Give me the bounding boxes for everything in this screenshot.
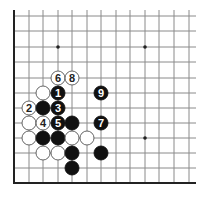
star-point (56, 45, 60, 49)
black-stone: 3 (51, 101, 65, 115)
black-stone: 9 (94, 86, 108, 100)
white-stone (65, 131, 79, 145)
move-number-label: 8 (69, 72, 75, 84)
white-stone (51, 146, 65, 160)
move-number-label: 6 (55, 72, 61, 84)
black-stone (65, 146, 79, 160)
white-stone (36, 146, 50, 160)
white-stone (80, 131, 94, 145)
black-stone (36, 131, 50, 145)
black-stone: 5 (51, 116, 65, 130)
black-stone: 7 (94, 116, 108, 130)
go-board: 681923457 (0, 0, 206, 197)
move-number-label: 2 (26, 102, 32, 114)
white-stone (22, 131, 36, 145)
black-stone (94, 146, 108, 160)
move-number-label: 5 (55, 117, 61, 129)
black-stone (36, 101, 50, 115)
star-point (143, 136, 147, 140)
white-stone: 8 (65, 71, 79, 85)
move-number-label: 1 (55, 87, 61, 99)
move-number-label: 7 (98, 117, 104, 129)
black-stone (65, 161, 79, 175)
white-stone (36, 86, 50, 100)
white-stone: 2 (22, 101, 36, 115)
white-stone: 6 (51, 71, 65, 85)
black-stone (65, 116, 79, 130)
black-stone: 1 (51, 86, 65, 100)
move-number-label: 3 (55, 102, 61, 114)
white-stone (22, 116, 36, 130)
stones: 681923457 (22, 71, 108, 175)
move-number-label: 9 (98, 87, 104, 99)
move-number-label: 4 (40, 117, 47, 129)
black-stone (51, 131, 65, 145)
star-point (143, 45, 147, 49)
white-stone: 4 (36, 116, 50, 130)
